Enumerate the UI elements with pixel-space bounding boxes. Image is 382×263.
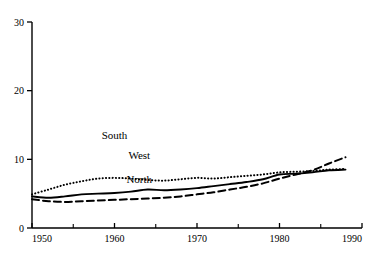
series-label-south: South [102,129,128,141]
line-chart: 010203019501960197019801990 SouthWestNor… [0,0,382,263]
series-label-layer: SouthWestNorth [102,129,153,185]
y-tick-label: 30 [14,17,24,28]
x-tick-label: 1980 [270,233,290,244]
x-tick-label: 1970 [187,233,207,244]
series-label-north: North [126,173,152,185]
x-tick-label: 1950 [32,233,52,244]
x-tick-label: 1990 [342,233,362,244]
chart-canvas: 010203019501960197019801990 SouthWestNor… [0,0,382,263]
y-tick-label: 20 [14,85,24,96]
y-tick-label: 0 [19,223,24,234]
x-tick-label: 1960 [105,233,125,244]
y-tick-label: 10 [14,154,24,165]
series-layer [32,157,346,202]
series-label-west: West [128,149,150,161]
axis-layer: 010203019501960197019801990 [14,17,362,245]
